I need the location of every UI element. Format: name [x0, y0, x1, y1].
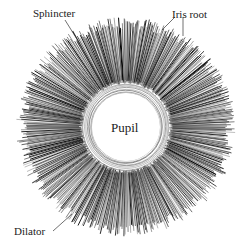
pupil-label: Pupil: [111, 121, 138, 134]
dilator-label: Dilator: [14, 226, 45, 237]
iris-root-label: Iris root: [172, 9, 207, 20]
dilator-leader-line: [53, 214, 72, 231]
sphincter-label: Sphincter: [33, 8, 75, 19]
iris-diagram: Sphincter Iris root Pupil Dilator: [0, 0, 240, 244]
